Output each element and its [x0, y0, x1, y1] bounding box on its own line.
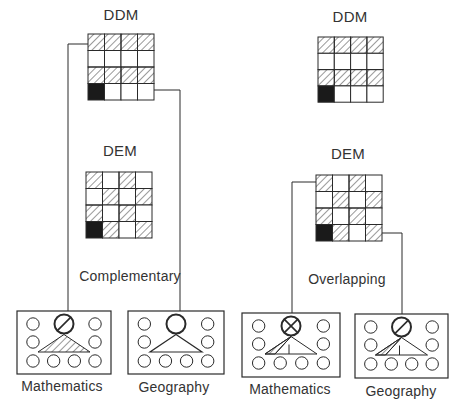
key-circle-plain-icon: [167, 315, 186, 334]
ddm-label-overlapping: DDM: [333, 8, 368, 25]
grid-cell-white: [334, 53, 350, 69]
grid-cell-hatched: [349, 175, 366, 192]
grid-cell-hatched: [366, 225, 383, 242]
subject-label-mathematics-complementary: Mathematics: [21, 378, 103, 394]
grid-cell-hatched: [136, 189, 153, 206]
subject-label-geography-overlapping: Geography: [365, 383, 436, 399]
subject-box-mathematics-overlapping: [242, 313, 340, 377]
diagram-canvas: DDM DEM Complementary Mathematics Geogra…: [0, 0, 467, 416]
connector-line-complementary-1: [154, 90, 180, 320]
grid-cell-black: [88, 84, 105, 101]
grid-cell-white: [351, 86, 367, 102]
grid-cell-white: [351, 53, 367, 69]
grid-cell-hatched: [103, 189, 120, 206]
grid-cell-white: [367, 53, 383, 69]
grid-cell-white: [366, 208, 383, 225]
grid-cell-hatched: [121, 34, 138, 51]
grid-cell-white: [333, 208, 350, 225]
subject-label-mathematics-overlapping: Mathematics: [249, 381, 331, 397]
grid-cell-black: [316, 225, 333, 242]
grid-cell-hatched: [366, 192, 383, 209]
grid-cell-black: [86, 222, 103, 239]
grid-cell-hatched: [334, 70, 350, 86]
grid-cell-hatched: [105, 34, 122, 51]
dem-grid-complementary: [86, 172, 152, 238]
grid-cell-white: [105, 51, 122, 68]
grid-cell-white: [119, 222, 136, 239]
grid-cell-hatched: [318, 37, 334, 53]
diagram-graphics: [0, 0, 467, 416]
grid-cell-white: [86, 189, 103, 206]
grid-cell-hatched: [105, 67, 122, 84]
grid-cell-hatched: [88, 67, 105, 84]
grid-cell-white: [138, 51, 155, 68]
grid-cell-white: [136, 172, 153, 189]
relation-label-overlapping: Overlapping: [308, 271, 386, 287]
grid-cell-hatched: [88, 34, 105, 51]
subject-box-geography-overlapping: [355, 314, 448, 378]
grid-cell-white: [121, 51, 138, 68]
ddm-label-complementary: DDM: [104, 6, 139, 23]
connector-line-overlapping-0: [292, 182, 316, 322]
grid-cell-hatched: [119, 205, 136, 222]
grid-cell-white: [138, 84, 155, 101]
grid-cell-white: [334, 86, 350, 102]
grid-cell-white: [333, 175, 350, 192]
grid-cell-white: [316, 192, 333, 209]
grid-cell-white: [136, 205, 153, 222]
dem-label-complementary: DEM: [103, 142, 137, 159]
grid-cell-hatched: [333, 225, 350, 242]
grid-cell-white: [349, 192, 366, 209]
subject-box-geography-complementary: [128, 311, 224, 374]
grid-cell-hatched: [316, 208, 333, 225]
grid-cell-hatched: [349, 208, 366, 225]
grid-cell-hatched: [136, 222, 153, 239]
relation-label-complementary: Complementary: [79, 268, 180, 284]
grid-cell-white: [119, 189, 136, 206]
grid-cell-hatched: [138, 34, 155, 51]
grid-cell-white: [349, 225, 366, 242]
grid-cell-white: [103, 172, 120, 189]
grid-cell-hatched: [367, 70, 383, 86]
grid-cell-black: [318, 86, 334, 102]
grid-cell-white: [105, 84, 122, 101]
dem-label-overlapping: DEM: [331, 145, 365, 162]
grid-cell-white: [88, 51, 105, 68]
grid-cell-hatched: [86, 172, 103, 189]
grid-cell-hatched: [351, 70, 367, 86]
ddm-grid-complementary: [88, 34, 154, 100]
grid-cell-white: [367, 86, 383, 102]
dem-grid-overlapping: [316, 175, 382, 241]
grid-cell-hatched: [86, 205, 103, 222]
grid-cell-hatched: [121, 67, 138, 84]
grid-cell-hatched: [318, 70, 334, 86]
grid-cell-hatched: [367, 37, 383, 53]
grid-cell-hatched: [351, 37, 367, 53]
grid-cell-hatched: [119, 172, 136, 189]
grid-cell-white: [366, 175, 383, 192]
grid-cell-hatched: [103, 222, 120, 239]
grid-cell-white: [103, 205, 120, 222]
subject-box-mathematics-complementary: [17, 311, 111, 374]
grid-cell-white: [121, 84, 138, 101]
grid-cell-white: [318, 53, 334, 69]
grid-cell-hatched: [333, 192, 350, 209]
subject-label-geography-complementary: Geography: [138, 379, 209, 395]
grid-cell-hatched: [316, 175, 333, 192]
ddm-grid-overlapping: [318, 37, 383, 102]
grid-cell-hatched: [334, 37, 350, 53]
grid-cell-hatched: [138, 67, 155, 84]
